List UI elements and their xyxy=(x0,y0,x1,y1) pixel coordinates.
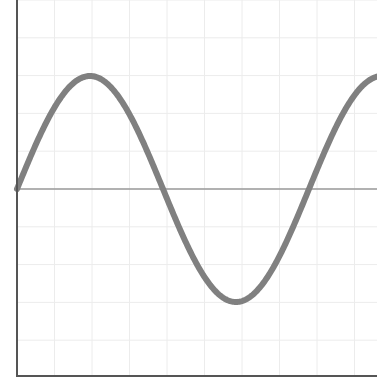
sine-wave-chart xyxy=(0,0,377,383)
grid-lines xyxy=(17,0,377,376)
